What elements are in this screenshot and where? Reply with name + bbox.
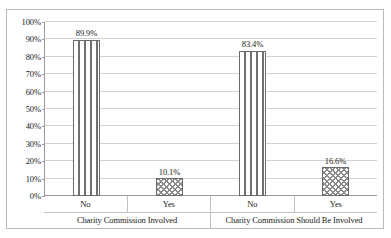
x-axis-labels: NoYesNoYes Charity Commission InvolvedCh… xyxy=(44,196,377,228)
bar-no-group1[interactable]: 89.9% xyxy=(73,40,100,196)
y-axis-tick-label: 60% xyxy=(26,87,41,96)
chart-frame: 0%10%20%30%40%50%60%70%80%90%100% 89.9%1… xyxy=(6,9,384,229)
y-axis-tick-label: 100% xyxy=(22,18,41,27)
bar-yes-group2[interactable]: 16.6% xyxy=(322,167,349,196)
y-axis-tick-label: 30% xyxy=(26,140,41,149)
x-axis-category-label: Yes xyxy=(294,196,378,212)
y-axis-tick-label: 90% xyxy=(26,35,41,44)
y-axis-tick-label: 40% xyxy=(26,122,41,131)
bar-value-label: 83.4% xyxy=(242,40,263,49)
x-axis-group-row: Charity Commission InvolvedCharity Commi… xyxy=(44,213,377,228)
x-axis-category-label: No xyxy=(44,196,127,212)
y-axis-tick-label: 0% xyxy=(30,192,41,201)
bar-value-label: 16.6% xyxy=(325,157,346,166)
x-axis-group-label: Charity Commission Involved xyxy=(44,213,210,228)
bar-value-label: 89.9% xyxy=(76,29,97,38)
x-axis-category-row: NoYesNoYes xyxy=(44,196,377,213)
chart-container: 0%10%20%30%40%50%60%70%80%90%100% 89.9%1… xyxy=(0,0,391,238)
bar-yes-group1[interactable]: 10.1% xyxy=(156,178,183,196)
y-axis-tick-label: 20% xyxy=(26,157,41,166)
bars-layer: 89.9%10.1%83.4%16.6% xyxy=(45,22,377,196)
y-axis-tick-label: 70% xyxy=(26,70,41,79)
x-axis-category-label: Yes xyxy=(127,196,211,212)
y-axis-tick-label: 50% xyxy=(26,105,41,114)
x-axis-category-label: No xyxy=(210,196,294,212)
y-axis-tick-label: 80% xyxy=(26,53,41,62)
bar-value-label: 10.1% xyxy=(159,168,180,177)
x-axis-group-label: Charity Commission Should Be Involved xyxy=(210,213,377,228)
bar-no-group2[interactable]: 83.4% xyxy=(239,51,266,196)
y-axis-tick-label: 10% xyxy=(26,174,41,183)
plot-area: 0%10%20%30%40%50%60%70%80%90%100% 89.9%1… xyxy=(44,22,377,196)
